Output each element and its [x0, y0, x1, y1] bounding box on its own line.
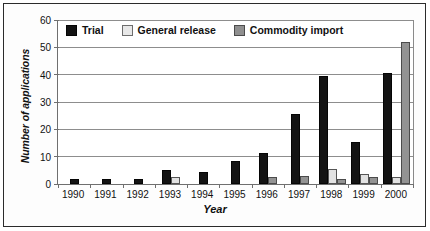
bar-group	[155, 20, 187, 184]
bar-group	[58, 20, 90, 184]
y-tick-label: 40	[21, 69, 51, 80]
bar-general	[328, 169, 337, 184]
bar-general	[171, 177, 180, 184]
x-tick-mark	[413, 184, 414, 188]
bar-group	[284, 20, 316, 184]
legend-item-commodity-import: Commodity import	[234, 24, 343, 36]
bar-trial	[70, 179, 79, 184]
bar-trial	[199, 172, 208, 184]
bar-general	[360, 174, 369, 184]
bar-trial	[259, 153, 268, 184]
bar-group	[252, 20, 284, 184]
legend-item-trial: Trial	[66, 24, 104, 36]
bar-trial	[162, 170, 171, 184]
bar-general	[392, 177, 401, 184]
bar-trial	[351, 142, 360, 184]
x-tick-mark	[381, 184, 382, 188]
chart-legend: Trial General release Commodity import	[66, 24, 352, 36]
bar-group	[316, 20, 348, 184]
x-tick-mark	[58, 184, 59, 188]
bar-group	[219, 20, 251, 184]
x-tick-mark	[219, 184, 220, 188]
bar-commodity	[401, 42, 410, 184]
legend-label-general-release: General release	[138, 24, 216, 36]
bar-commodity	[337, 179, 346, 184]
bar-trial	[134, 179, 143, 184]
x-tick-mark	[90, 184, 91, 188]
x-tick-mark	[187, 184, 188, 188]
legend-swatch-trial	[66, 25, 77, 36]
y-tick-label: 50	[21, 42, 51, 53]
y-tick-label: 30	[21, 97, 51, 108]
y-tick-label: 10	[21, 151, 51, 162]
bar-trial	[383, 73, 392, 184]
chart-figure: Number of applications Year Trial Genera…	[0, 0, 430, 231]
bar-trial	[231, 161, 240, 184]
legend-label-trial: Trial	[82, 24, 104, 36]
bar-group	[90, 20, 122, 184]
bar-trial	[319, 76, 328, 184]
y-tick-label: 0	[21, 179, 51, 190]
x-tick-mark	[316, 184, 317, 188]
bar-group	[123, 20, 155, 184]
legend-swatch-commodity-import	[234, 25, 245, 36]
x-tick-mark	[284, 184, 285, 188]
y-tick-label: 60	[21, 15, 51, 26]
bar-group	[187, 20, 219, 184]
x-axis-title: Year	[0, 203, 430, 215]
bar-group	[348, 20, 380, 184]
legend-label-commodity-import: Commodity import	[250, 24, 343, 36]
x-tick-mark	[252, 184, 253, 188]
bar-trial	[291, 114, 300, 184]
plot-area	[57, 20, 414, 185]
legend-item-general-release: General release	[122, 24, 216, 36]
legend-swatch-general-release	[122, 25, 133, 36]
bar-commodity	[268, 177, 277, 184]
x-tick-mark	[348, 184, 349, 188]
bar-trial	[102, 179, 111, 184]
bar-group	[381, 20, 413, 184]
y-tick-label: 20	[21, 124, 51, 135]
bar-commodity	[300, 176, 309, 184]
bar-commodity	[369, 177, 378, 184]
x-tick-mark	[123, 184, 124, 188]
x-tick-label: 2000	[376, 189, 416, 200]
x-tick-mark	[155, 184, 156, 188]
